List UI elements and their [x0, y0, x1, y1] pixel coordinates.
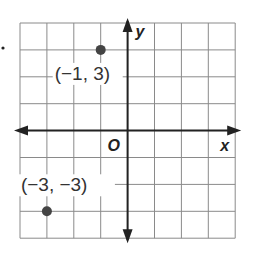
point-label: (−1, 3) — [55, 63, 110, 84]
x-axis-label: x — [219, 137, 230, 154]
point-label: (−3, −3) — [21, 174, 88, 195]
y-axis-up-arrow-icon — [123, 18, 133, 32]
y-axis-label: y — [135, 23, 146, 40]
coordinate-plane: yxO(−1, 3)(−3, −3) — [0, 0, 253, 256]
x-axis-left-arrow-icon — [14, 126, 28, 136]
data-point — [96, 45, 106, 55]
bullet-dot — [1, 46, 4, 49]
origin-label: O — [108, 137, 121, 154]
data-point — [42, 206, 52, 216]
y-axis-down-arrow-icon — [123, 229, 133, 243]
x-axis-right-arrow-icon — [227, 126, 241, 136]
